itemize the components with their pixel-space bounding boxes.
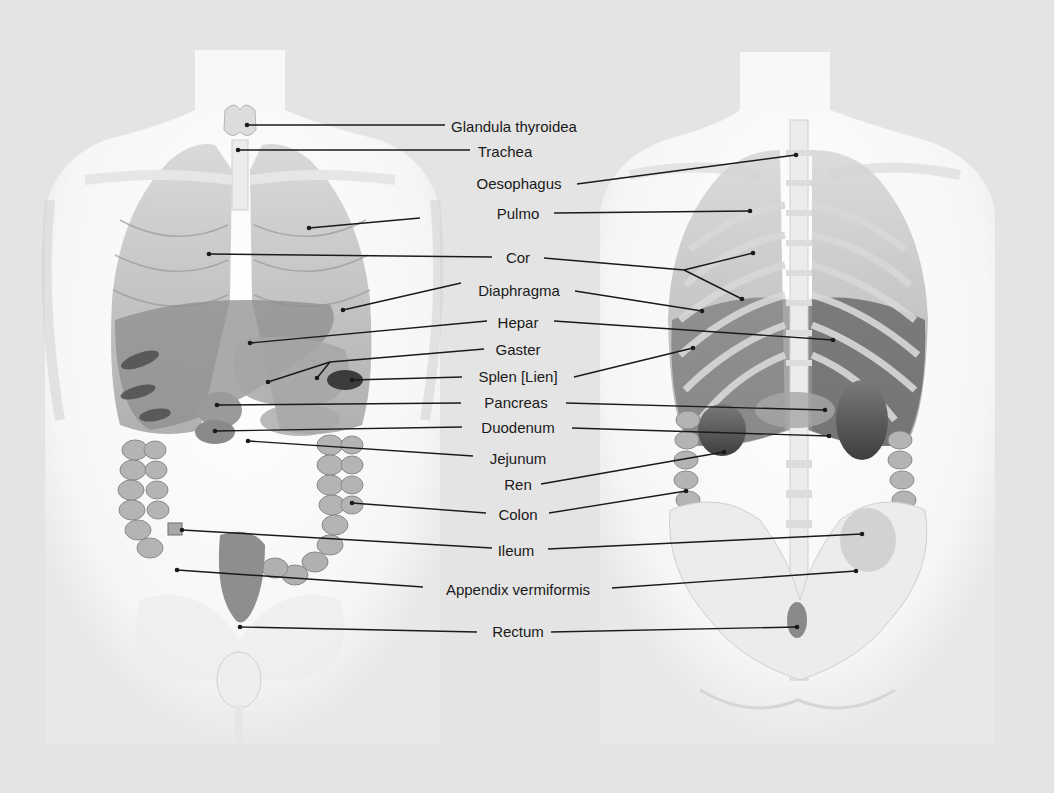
leader-endpoint-dot	[350, 378, 355, 383]
label-duodenum: Duodenum	[481, 420, 554, 435]
leader-endpoint-dot	[315, 376, 320, 381]
label-trachea: Trachea	[478, 144, 532, 159]
label-oesophagus: Oesophagus	[476, 176, 561, 191]
label-hepar: Hepar	[498, 315, 539, 330]
leader-endpoint-dot	[860, 532, 865, 537]
leader-endpoint-dot	[854, 569, 859, 574]
leader-endpoint-dot	[245, 123, 250, 128]
anatomy-diagram: Glandula thyroidea Trachea Oesophagus Pu…	[0, 0, 1054, 793]
leader-endpoint-dot	[823, 408, 828, 413]
leader-endpoint-dot	[180, 528, 185, 533]
leader-endpoint-dot	[341, 308, 346, 313]
leader-endpoint-dot	[684, 489, 689, 494]
anterior-body	[45, 50, 440, 745]
label-ren: Ren	[504, 477, 532, 492]
leader-endpoint-dot	[794, 153, 799, 158]
label-jejunum: Jejunum	[490, 451, 547, 466]
leader-endpoint-dot	[307, 226, 312, 231]
leader-endpoint-dot	[213, 429, 218, 434]
label-pancreas: Pancreas	[484, 395, 547, 410]
label-splen: Splen [Lien]	[478, 369, 557, 384]
label-rectum: Rectum	[492, 624, 544, 639]
label-gaster: Gaster	[495, 342, 540, 357]
label-appendix-vermiformis: Appendix vermiformis	[446, 582, 590, 597]
leader-endpoint-dot	[246, 439, 251, 444]
leader-endpoint-dot	[248, 341, 253, 346]
leader-endpoint-dot	[700, 309, 705, 314]
leader-endpoint-dot	[238, 625, 243, 630]
leader-endpoint-dot	[236, 148, 241, 153]
leader-endpoint-dot	[795, 625, 800, 630]
leader-endpoint-dot	[748, 209, 753, 214]
leader-endpoint-dot	[207, 252, 212, 257]
leader-endpoint-dot	[751, 251, 756, 256]
label-cor: Cor	[506, 250, 530, 265]
leader-endpoint-dot	[827, 434, 832, 439]
leader-endpoint-dot	[831, 338, 836, 343]
label-glandula-thyroidea: Glandula thyroidea	[451, 119, 577, 134]
label-diaphragma: Diaphragma	[478, 283, 560, 298]
leader-endpoint-dot	[266, 380, 271, 385]
label-pulmo: Pulmo	[497, 206, 540, 221]
leader-endpoint-dot	[215, 403, 220, 408]
leader-endpoint-dot	[350, 501, 355, 506]
leader-endpoint-dot	[722, 450, 727, 455]
label-colon: Colon	[498, 507, 537, 522]
leader-endpoint-dot	[691, 346, 696, 351]
leader-endpoint-dot	[740, 297, 745, 302]
leader-endpoint-dot	[175, 568, 180, 573]
label-ileum: Ileum	[498, 543, 535, 558]
